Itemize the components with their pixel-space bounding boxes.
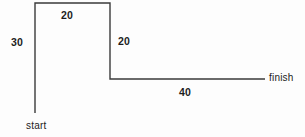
segment-length-label-40: 40 — [179, 86, 191, 98]
finish-label: finish — [269, 72, 294, 84]
path-diagram: 30 20 20 40 start finish — [0, 0, 305, 137]
start-label: start — [26, 120, 46, 132]
segment-length-label-30: 30 — [11, 36, 23, 48]
segment-length-label-20-right: 20 — [118, 35, 130, 47]
path-graphic — [0, 0, 305, 137]
segment-length-label-20-top: 20 — [61, 9, 73, 21]
